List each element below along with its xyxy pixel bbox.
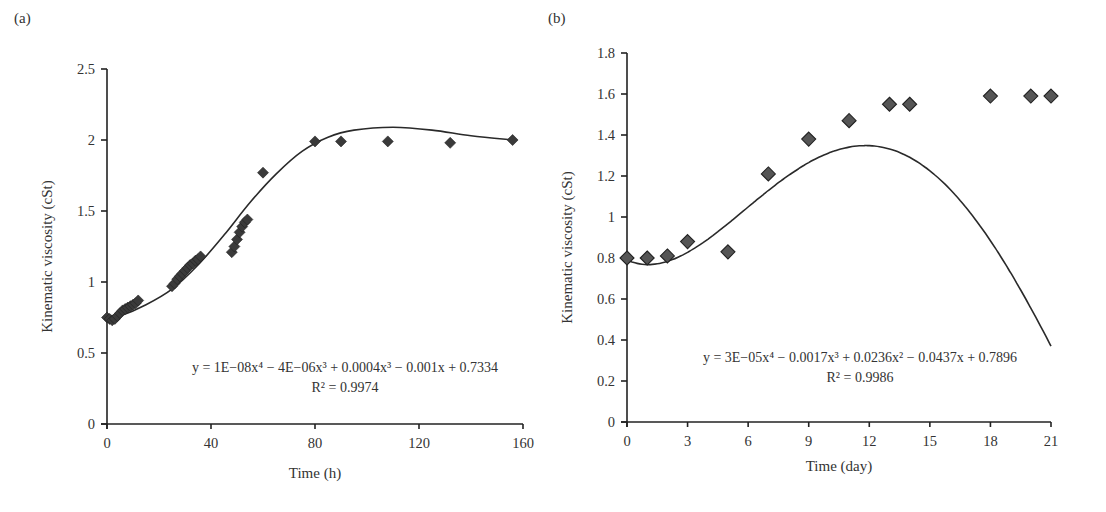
x-tick-label: 80: [308, 435, 323, 451]
x-tick-label: 3: [684, 433, 691, 449]
x-tick-label: 9: [805, 433, 812, 449]
trendline-equation: y = 3E−05x⁴ − 0.0017x³ + 0.0236x² − 0.04…: [703, 350, 1017, 365]
x-tick-label: 40: [204, 435, 219, 451]
data-point-diamond: [258, 167, 269, 178]
data-point-diamond: [903, 97, 917, 111]
data-points: [620, 89, 1058, 265]
y-axis-title: Kinematic viscosity (cSt): [39, 180, 56, 332]
y-tick-label: 1.8: [597, 45, 615, 61]
y-tick-label: 0: [88, 416, 95, 432]
data-point-diamond: [382, 136, 393, 147]
panel-label: (a): [14, 10, 31, 27]
data-point-diamond: [507, 135, 518, 146]
r-squared: R² = 0.9974: [312, 380, 379, 395]
panel-label: (b): [548, 10, 566, 27]
trendline-equation: y = 1E−08x⁴ − 4E−06x³ + 0.0004x³ − 0.001…: [192, 360, 498, 375]
y-tick-label: 0.4: [597, 332, 616, 348]
x-tick-label: 12: [862, 433, 877, 449]
data-point-diamond: [761, 167, 775, 181]
x-axis-ticks: 04080120160: [103, 424, 534, 451]
y-tick-label: 1: [88, 274, 95, 290]
x-tick-label: 120: [408, 435, 430, 451]
y-tick-label: 1.6: [597, 86, 615, 102]
y-axis-ticks: 00.20.40.60.811.21.41.61.8: [597, 45, 627, 430]
chart-panel-a: (a) 00.511.522.5 04080120160 Time (h) Ki…: [14, 10, 534, 482]
x-axis-title: Time (h): [289, 465, 341, 482]
y-tick-label: 2.5: [77, 61, 95, 77]
data-point-diamond: [445, 137, 456, 148]
data-point-diamond: [882, 97, 896, 111]
data-point-diamond: [842, 114, 856, 128]
y-axis-ticks: 00.511.522.5: [77, 61, 107, 432]
x-tick-label: 160: [512, 435, 534, 451]
data-point-diamond: [681, 235, 695, 249]
y-tick-label: 2: [88, 132, 95, 148]
data-points: [102, 135, 519, 326]
x-tick-label: 15: [923, 433, 938, 449]
figure: (a) 00.511.522.5 04080120160 Time (h) Ki…: [0, 0, 1106, 512]
x-tick-label: 21: [1044, 433, 1059, 449]
x-tick-label: 6: [745, 433, 752, 449]
chart-panel-b: (b) 00.20.40.60.811.21.41.61.8 036912151…: [548, 10, 1058, 475]
y-tick-label: 0.6: [597, 291, 615, 307]
y-tick-label: 0.2: [597, 373, 615, 389]
data-point-diamond: [983, 89, 997, 103]
data-point-diamond: [721, 245, 735, 259]
x-axis-title: Time (day): [806, 458, 873, 475]
x-tick-label: 18: [983, 433, 998, 449]
data-point-diamond: [640, 251, 654, 265]
trendline: [107, 127, 513, 319]
r-squared: R² = 0.9986: [827, 370, 894, 385]
y-tick-label: 0.8: [597, 250, 615, 266]
x-axis-ticks: 036912151821: [623, 422, 1058, 449]
y-tick-label: 1.4: [597, 127, 616, 143]
y-tick-label: 1: [608, 209, 615, 225]
data-point-diamond: [1044, 89, 1058, 103]
y-tick-label: 1.5: [77, 203, 95, 219]
x-tick-label: 0: [623, 433, 630, 449]
y-tick-label: 1.2: [597, 168, 615, 184]
data-point-diamond: [802, 132, 816, 146]
y-axis-title: Kinematic viscosity (cSt): [559, 171, 576, 323]
data-point-diamond: [660, 249, 674, 263]
y-tick-label: 0.5: [77, 345, 95, 361]
data-point-diamond: [1024, 89, 1038, 103]
data-point-diamond: [336, 136, 347, 147]
y-tick-label: 0: [608, 414, 615, 430]
x-tick-label: 0: [103, 435, 110, 451]
